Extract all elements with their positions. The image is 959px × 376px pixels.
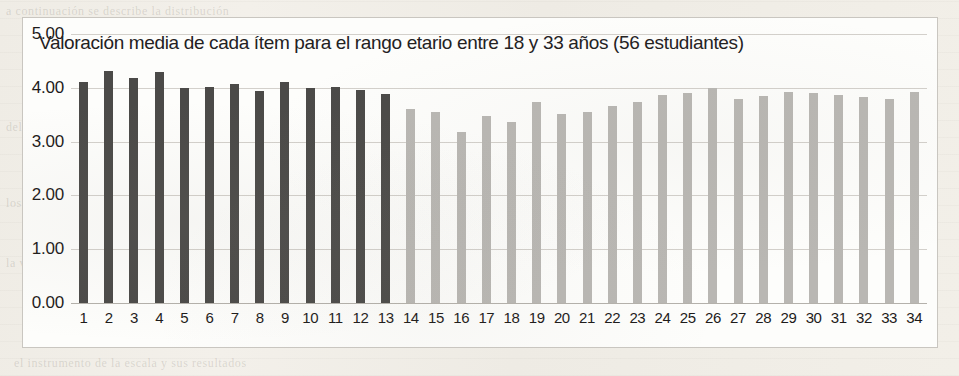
- bar-slot: [801, 34, 826, 303]
- bar: [708, 88, 717, 303]
- ghost-text-line: el instrumento de la escala y sus result…: [14, 356, 944, 371]
- bar-slot: [298, 34, 323, 303]
- bar: [734, 99, 743, 303]
- x-axis-tick-label: 18: [499, 309, 524, 326]
- bar: [658, 95, 667, 303]
- bar: [306, 88, 315, 303]
- x-axis-tick-label: 30: [801, 309, 826, 326]
- x-axis-tick-label: 27: [725, 309, 750, 326]
- bar: [431, 112, 440, 303]
- bar-slot: [197, 34, 222, 303]
- x-axis-tick-label: 3: [121, 309, 146, 326]
- bar-slot: [147, 34, 172, 303]
- bar-slot: [96, 34, 121, 303]
- bar-slot: [121, 34, 146, 303]
- bar-slot: [348, 34, 373, 303]
- bar: [104, 71, 113, 303]
- bar: [155, 72, 164, 303]
- bar: [255, 91, 264, 304]
- bar: [79, 82, 88, 303]
- x-axis-tick-label: 17: [474, 309, 499, 326]
- x-axis-tick-label: 26: [700, 309, 725, 326]
- bar-slot: [549, 34, 574, 303]
- x-axis-tick-label: 31: [826, 309, 851, 326]
- y-axis-tick-label: 2.00: [32, 185, 64, 205]
- bar: [583, 112, 592, 303]
- x-axis-tick-label: 21: [574, 309, 599, 326]
- bar-slot: [725, 34, 750, 303]
- x-axis-tick-label: 22: [600, 309, 625, 326]
- bar-slot: [474, 34, 499, 303]
- bar-slot: [574, 34, 599, 303]
- bar-slot: [172, 34, 197, 303]
- y-axis-tick-label: 1.00: [32, 239, 64, 259]
- chart-title: Valoración media de cada ítem para el ra…: [39, 32, 919, 54]
- bar-slot: [877, 34, 902, 303]
- bar-slot: [222, 34, 247, 303]
- x-axis-tick-label: 12: [348, 309, 373, 326]
- bar-slot: [625, 34, 650, 303]
- bar-slot: [851, 34, 876, 303]
- bar-slot: [826, 34, 851, 303]
- bar: [633, 102, 642, 303]
- x-axis-tick-label: 15: [423, 309, 448, 326]
- bar-slot: [247, 34, 272, 303]
- bar-slot: [776, 34, 801, 303]
- plot-area: 5.004.003.002.001.000.00: [71, 34, 927, 303]
- bar: [834, 95, 843, 303]
- bar-series: [71, 34, 927, 303]
- bar-slot: [499, 34, 524, 303]
- x-axis-tick-label: 9: [272, 309, 297, 326]
- chart-container: Valoración media de cada ítem para el ra…: [22, 17, 938, 348]
- bar-slot: [323, 34, 348, 303]
- y-axis-tick-label: 4.00: [32, 78, 64, 98]
- bar: [457, 132, 466, 303]
- bar: [381, 94, 390, 303]
- bar-slot: [902, 34, 927, 303]
- bar: [180, 88, 189, 303]
- bar: [885, 99, 894, 303]
- bar-slot: [398, 34, 423, 303]
- bar: [507, 122, 516, 303]
- x-axis-tick-label: 1: [71, 309, 96, 326]
- bar-slot: [373, 34, 398, 303]
- x-axis-tick-label: 28: [751, 309, 776, 326]
- bar: [859, 97, 868, 303]
- bar-slot: [675, 34, 700, 303]
- x-axis-tick-label: 24: [650, 309, 675, 326]
- x-axis-tick-label: 13: [373, 309, 398, 326]
- x-axis-tick-label: 25: [675, 309, 700, 326]
- bar-slot: [700, 34, 725, 303]
- x-axis-tick-label: 14: [398, 309, 423, 326]
- bar: [406, 109, 415, 303]
- x-axis-tick-label: 34: [902, 309, 927, 326]
- x-axis-tick-label: 5: [172, 309, 197, 326]
- bar: [784, 92, 793, 303]
- x-axis-tick-label: 16: [449, 309, 474, 326]
- bar: [280, 82, 289, 303]
- bar: [230, 84, 239, 303]
- bar: [557, 114, 566, 303]
- x-axis-tick-label: 8: [247, 309, 272, 326]
- x-axis-tick-label: 7: [222, 309, 247, 326]
- bar: [910, 92, 919, 303]
- bar-slot: [71, 34, 96, 303]
- x-axis-tick-label: 23: [625, 309, 650, 326]
- bar: [759, 96, 768, 303]
- bar-slot: [449, 34, 474, 303]
- bar: [356, 90, 365, 303]
- bar-slot: [272, 34, 297, 303]
- x-axis-tick-label: 32: [851, 309, 876, 326]
- bar: [129, 78, 138, 303]
- x-axis-line: [71, 303, 927, 304]
- y-axis-tick-label: 3.00: [32, 132, 64, 152]
- x-axis-tick-label: 4: [147, 309, 172, 326]
- bar-slot: [423, 34, 448, 303]
- bar: [532, 102, 541, 303]
- x-axis-tick-label: 2: [96, 309, 121, 326]
- x-axis-tick-label: 33: [877, 309, 902, 326]
- bar: [608, 106, 617, 303]
- bar-slot: [524, 34, 549, 303]
- x-axis-tick-label: 11: [323, 309, 348, 326]
- bar: [683, 93, 692, 303]
